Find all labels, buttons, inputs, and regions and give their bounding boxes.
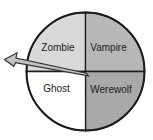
- spinner-figure: Zombie Vampire Werewolf Ghost: [0, 0, 153, 140]
- slice-label-vampire: Vampire: [90, 42, 127, 53]
- slice-label-zombie: Zombie: [41, 42, 75, 53]
- spinner: Zombie Vampire Werewolf Ghost: [0, 0, 153, 140]
- slice-label-werewolf: Werewolf: [90, 84, 132, 95]
- spinner-wheel: [27, 13, 145, 131]
- slice-label-ghost: Ghost: [43, 83, 70, 94]
